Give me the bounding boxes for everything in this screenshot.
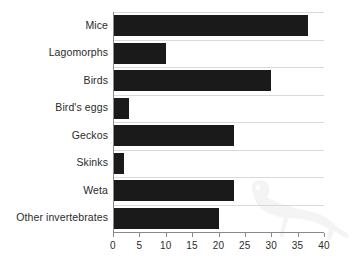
- x-tick-mark: [166, 233, 167, 237]
- bar: [113, 125, 234, 146]
- x-tick-mark: [271, 233, 272, 237]
- bar: [113, 15, 308, 36]
- category-label: Weta: [0, 184, 108, 196]
- x-tick-label: 15: [180, 240, 204, 251]
- y-axis-line: [113, 12, 114, 233]
- bar: [113, 70, 271, 91]
- category-label: Mice: [0, 19, 108, 31]
- category-label: Other invertebrates: [0, 211, 108, 223]
- bar: [113, 153, 124, 174]
- category-label: Bird's eggs: [0, 101, 108, 113]
- x-tick-label: 40: [312, 240, 336, 251]
- x-tick-mark: [245, 233, 246, 237]
- gridline: [113, 12, 324, 13]
- gridline: [113, 67, 324, 68]
- gridline: [113, 40, 324, 41]
- plot-area: [113, 12, 324, 232]
- gridline: [113, 95, 324, 96]
- x-tick-mark: [324, 233, 325, 237]
- x-tick-label: 35: [286, 240, 310, 251]
- bar: [113, 208, 219, 229]
- bar: [113, 180, 234, 201]
- x-tick-label: 20: [207, 240, 231, 251]
- bar-chart: MiceLagomorphsBirdsBird's eggsGeckosSkin…: [0, 0, 354, 267]
- x-tick-label: 0: [101, 240, 125, 251]
- category-label: Skinks: [0, 156, 108, 168]
- category-label: Lagomorphs: [0, 46, 108, 58]
- x-tick-label: 10: [154, 240, 178, 251]
- x-tick-mark: [139, 233, 140, 237]
- gridline: [113, 205, 324, 206]
- category-label: Birds: [0, 74, 108, 86]
- x-tick-mark: [219, 233, 220, 237]
- x-tick-mark: [192, 233, 193, 237]
- bar: [113, 43, 166, 64]
- x-tick-label: 25: [233, 240, 257, 251]
- gridline: [113, 122, 324, 123]
- category-label: Geckos: [0, 129, 108, 141]
- x-tick-mark: [298, 233, 299, 237]
- x-tick-mark: [113, 233, 114, 237]
- x-tick-label: 30: [259, 240, 283, 251]
- gridline: [113, 150, 324, 151]
- bar: [113, 98, 129, 119]
- x-tick-label: 5: [127, 240, 151, 251]
- gridline: [113, 177, 324, 178]
